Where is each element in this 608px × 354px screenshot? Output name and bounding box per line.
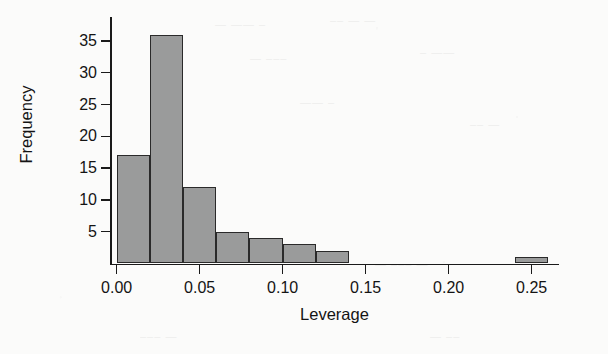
y-axis-tick-label: 25 bbox=[57, 97, 97, 113]
y-axis-tick bbox=[101, 199, 110, 201]
histogram-bar bbox=[283, 244, 316, 263]
y-axis-tick-label: 15 bbox=[57, 160, 97, 176]
histogram-bar bbox=[249, 238, 282, 263]
x-axis-tick-label: 0.25 bbox=[492, 280, 572, 296]
x-axis-tick bbox=[282, 265, 284, 274]
y-axis-tick-label: 30 bbox=[57, 65, 97, 81]
x-axis-title: Leverage bbox=[110, 305, 559, 324]
x-axis-tick bbox=[365, 265, 367, 274]
histogram-bar bbox=[150, 35, 183, 264]
y-axis-line bbox=[110, 17, 112, 265]
y-axis-title: Frequency bbox=[17, 65, 36, 185]
histogram-bar bbox=[316, 251, 349, 264]
x-axis-tick-label: 0.15 bbox=[326, 280, 406, 296]
histogram-bar bbox=[117, 155, 150, 263]
y-axis-tick bbox=[101, 231, 110, 233]
y-axis-tick-label: 10 bbox=[57, 192, 97, 208]
x-axis-tick bbox=[199, 265, 201, 274]
histogram-figure: — —— ––– — —— –––– ———— ––– —— ––– —––– … bbox=[0, 0, 608, 354]
y-axis-tick-label: 35 bbox=[57, 33, 97, 49]
y-axis-tick-label: 5 bbox=[57, 224, 97, 240]
y-axis-tick bbox=[101, 40, 110, 42]
x-axis-tick-label: 0.05 bbox=[160, 280, 240, 296]
x-axis-line bbox=[110, 264, 559, 266]
y-axis-tick-label: 20 bbox=[57, 128, 97, 144]
histogram-bar bbox=[183, 187, 216, 263]
y-axis-tick bbox=[101, 167, 110, 169]
x-axis-tick-label: 0.10 bbox=[243, 280, 323, 296]
x-axis-tick bbox=[116, 265, 118, 274]
x-axis-tick-label: 0.20 bbox=[409, 280, 489, 296]
y-axis-tick bbox=[101, 104, 110, 106]
x-axis-tick bbox=[448, 265, 450, 274]
x-axis-tick bbox=[531, 265, 533, 274]
y-axis-tick bbox=[101, 72, 110, 74]
y-axis-tick bbox=[101, 136, 110, 138]
x-axis-tick-label: 0.00 bbox=[77, 280, 157, 296]
plot-area: 5101520253035 0.000.050.100.150.200.25 F… bbox=[0, 0, 608, 354]
histogram-bar bbox=[216, 232, 249, 264]
